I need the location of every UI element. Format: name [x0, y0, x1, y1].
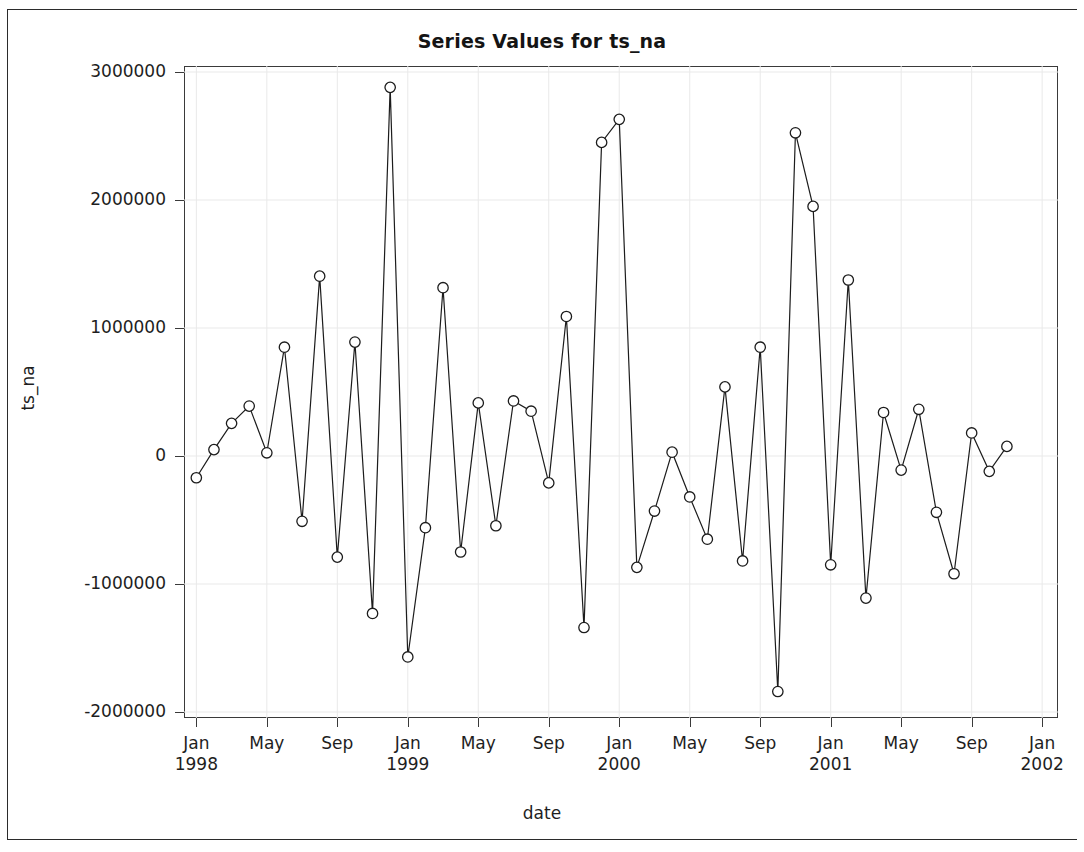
y-tick-mark — [175, 456, 184, 457]
data-point-marker — [808, 201, 818, 211]
x-tick-year: 2001 — [781, 754, 881, 775]
y-tick-mark — [175, 200, 184, 201]
data-point-marker — [420, 522, 430, 532]
x-tick-mark — [901, 718, 902, 727]
data-point-marker — [491, 521, 501, 531]
x-tick-year: 1998 — [146, 754, 246, 775]
data-point-marker — [455, 547, 465, 557]
y-tick-label: 3000000 — [4, 61, 166, 81]
data-point-marker — [279, 342, 289, 352]
y-tick-label: -2000000 — [4, 701, 166, 721]
data-point-marker — [191, 473, 201, 483]
data-point-marker — [702, 534, 712, 544]
data-point-marker — [632, 562, 642, 572]
data-point-marker — [262, 448, 272, 458]
data-point-marker — [209, 444, 219, 454]
series-plot — [184, 66, 1058, 718]
y-tick-label: 2000000 — [4, 189, 166, 209]
x-tick-mark — [267, 718, 268, 727]
data-point-marker — [526, 406, 536, 416]
data-point-marker — [755, 342, 765, 352]
data-point-marker — [314, 271, 324, 281]
data-point-marker — [403, 652, 413, 662]
data-point-marker — [773, 686, 783, 696]
data-point-marker — [843, 275, 853, 285]
data-point-marker — [438, 282, 448, 292]
data-point-marker — [561, 311, 571, 321]
data-point-marker — [508, 396, 518, 406]
data-point-marker — [949, 569, 959, 579]
data-point-marker — [878, 407, 888, 417]
y-axis-label: ts_na — [18, 338, 38, 438]
data-point-marker — [332, 552, 342, 562]
data-point-marker — [614, 114, 624, 124]
x-tick-year: 2000 — [569, 754, 669, 775]
data-point-marker — [244, 401, 254, 411]
data-point-marker — [896, 465, 906, 475]
data-point-marker — [931, 507, 941, 517]
x-tick-mark — [337, 718, 338, 727]
series-line — [196, 87, 1007, 691]
x-axis-label: date — [0, 803, 1084, 823]
x-tick-mark — [1042, 718, 1043, 727]
x-tick-mark — [831, 718, 832, 727]
x-tick-year: 2002 — [992, 754, 1084, 775]
data-point-marker — [596, 137, 606, 147]
y-tick-mark — [175, 712, 184, 713]
x-tick-year: 1999 — [358, 754, 458, 775]
x-tick-mark — [760, 718, 761, 727]
x-tick-mark — [408, 718, 409, 727]
y-tick-mark — [175, 584, 184, 585]
y-tick-label: 0 — [4, 445, 166, 465]
chart-figure: Series Values for ts_na 3000000200000010… — [0, 0, 1084, 852]
data-point-marker — [473, 398, 483, 408]
data-point-marker — [720, 382, 730, 392]
y-tick-label: -1000000 — [4, 573, 166, 593]
x-tick-mark — [972, 718, 973, 727]
data-point-marker — [385, 82, 395, 92]
y-tick-mark — [175, 328, 184, 329]
y-tick-label: 1000000 — [4, 317, 166, 337]
data-point-marker — [1002, 441, 1012, 451]
x-tick-label: Jan2002 — [992, 733, 1084, 775]
data-point-marker — [861, 593, 871, 603]
data-point-marker — [649, 506, 659, 516]
x-tick-mark — [619, 718, 620, 727]
data-point-marker — [685, 492, 695, 502]
data-point-marker — [966, 428, 976, 438]
x-tick-mark — [478, 718, 479, 727]
chart-title: Series Values for ts_na — [0, 30, 1084, 52]
data-point-marker — [914, 404, 924, 414]
data-point-marker — [667, 447, 677, 457]
data-point-marker — [367, 608, 377, 618]
data-point-marker — [825, 560, 835, 570]
x-tick-mark — [549, 718, 550, 727]
data-point-marker — [790, 128, 800, 138]
data-point-marker — [226, 418, 236, 428]
x-tick-month: Jan — [992, 733, 1084, 754]
data-point-marker — [579, 622, 589, 632]
data-point-marker — [350, 337, 360, 347]
x-tick-mark — [196, 718, 197, 727]
data-point-marker — [297, 516, 307, 526]
data-point-marker — [984, 466, 994, 476]
y-tick-mark — [175, 72, 184, 73]
data-point-marker — [544, 478, 554, 488]
data-point-marker — [737, 556, 747, 566]
x-tick-mark — [690, 718, 691, 727]
